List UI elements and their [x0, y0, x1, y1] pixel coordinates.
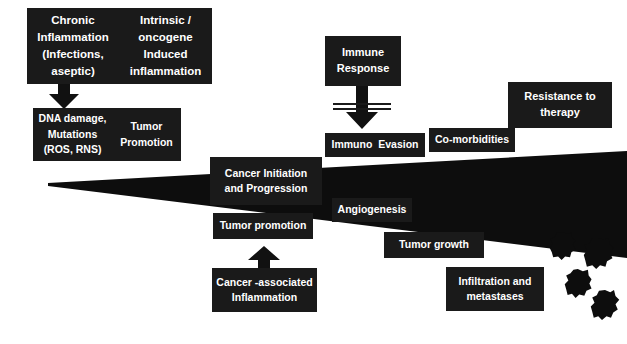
- co-morbidities-line1: Co-morbidities: [435, 132, 509, 147]
- tumor-promotion-top-group: Tumor Promotion: [112, 119, 181, 151]
- angiogenesis-box: Angiogenesis: [332, 198, 412, 222]
- cancer-associated-inflammation-line1: Cancer -associated: [216, 275, 312, 290]
- chronic-inflammation-line3: (Infections, aseptic): [27, 46, 119, 81]
- tumor-growth-box: Tumor growth: [384, 232, 484, 258]
- chronic-inflammation-group: Chronic Inflammation (Infections, asepti…: [27, 12, 119, 81]
- up-arrow-icon-inflammation: [247, 246, 281, 270]
- infiltration-metastases-line2: metastases: [466, 289, 523, 304]
- cancer-cell-blob-icon-2: [583, 237, 614, 270]
- co-morbidities-box: Co-morbidities: [429, 128, 515, 152]
- infiltration-metastases-line1: Infiltration and: [459, 274, 532, 289]
- cancer-cell-blob-icon-3: [564, 268, 593, 299]
- dna-damage-line2: Mutations: [48, 127, 98, 143]
- intrinsic-oncogene-line1: Intrinsic / oncogene: [119, 12, 212, 47]
- tumor-growth-line1: Tumor growth: [399, 237, 469, 252]
- immune-response-line1: Immune: [342, 45, 384, 61]
- intrinsic-oncogene-line3: inflammation: [130, 63, 202, 80]
- tumor-promotion-top-line2: Promotion: [120, 135, 173, 151]
- dna-damage-line1: DNA damage,: [39, 111, 107, 127]
- tumor-promotion-top-line1: Tumor: [131, 119, 163, 135]
- angiogenesis-line1: Angiogenesis: [338, 202, 407, 217]
- infiltration-metastases-box: Infiltration and metastases: [446, 267, 544, 311]
- intrinsic-oncogene-line2: Induced: [143, 46, 187, 63]
- tumor-promotion-lower-box: Tumor promotion: [213, 213, 313, 239]
- cancer-initiation-line2: and Progression: [225, 181, 308, 196]
- inhibition-bars-icon-lower: [333, 108, 391, 110]
- tumor-promotion-lower-line1: Tumor promotion: [220, 218, 307, 233]
- cancer-cell-blob-icon-4: [590, 289, 620, 321]
- immuno-evasion-line1: Immuno Evasion: [332, 137, 419, 152]
- cancer-initiation-box: Cancer Initiation and Progression: [210, 157, 322, 205]
- down-arrow-icon-top: [48, 83, 80, 110]
- immune-response-box: Immune Response: [325, 36, 401, 86]
- dna-damage-tumor-promotion-box: DNA damage, Mutations (ROS, RNS) Tumor P…: [33, 108, 181, 161]
- cancer-associated-inflammation-line2: Inflammation: [232, 290, 297, 305]
- immune-response-line2: Response: [337, 61, 390, 77]
- cancer-associated-inflammation-box: Cancer -associated Inflammation: [212, 268, 317, 312]
- chronic-inflammation-line2: Inflammation: [37, 29, 109, 46]
- cancer-initiation-line1: Cancer Initiation: [225, 166, 307, 181]
- diagram-canvas: Chronic Inflammation (Infections, asepti…: [0, 0, 627, 344]
- immuno-evasion-box: Immuno Evasion: [325, 133, 425, 157]
- dna-damage-group: DNA damage, Mutations (ROS, RNS): [33, 111, 112, 158]
- intrinsic-oncogene-group: Intrinsic / oncogene Induced inflammatio…: [119, 12, 212, 81]
- chronic-inflammation-line1: Chronic: [51, 12, 94, 29]
- resistance-to-therapy-line1: Resistance to: [524, 89, 596, 105]
- dna-damage-line3: (ROS, RNS): [44, 142, 102, 158]
- resistance-to-therapy-line2: therapy: [540, 105, 580, 121]
- resistance-to-therapy-box: Resistance to therapy: [508, 82, 612, 128]
- top-inflammation-sources-box: Chronic Inflammation (Infections, asepti…: [27, 8, 212, 84]
- inhibition-bars-icon-upper: [333, 103, 391, 105]
- cancer-cell-blob-icon-1: [549, 231, 577, 261]
